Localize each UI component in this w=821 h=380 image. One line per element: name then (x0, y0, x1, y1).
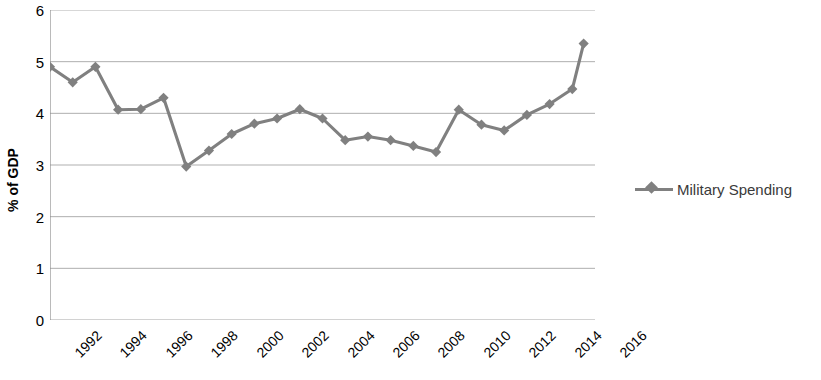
data-point-marker (158, 93, 168, 103)
data-point-marker (295, 104, 305, 114)
military-spending-line-chart: % of GDP 0123456 19921994199619982000200… (0, 0, 821, 380)
data-point-marker (579, 38, 589, 48)
x-tick-label: 2016 (617, 328, 649, 360)
plot-svg (50, 10, 595, 320)
x-tick-label: 1996 (163, 328, 195, 360)
y-tick-label: 2 (22, 209, 44, 224)
y-tick-label: 0 (22, 313, 44, 328)
data-point-marker (363, 131, 373, 141)
y-tick-label: 6 (22, 3, 44, 18)
x-tick-label: 2012 (526, 328, 558, 360)
y-axis-tick-labels: 0123456 (22, 0, 44, 330)
y-tick-label: 4 (22, 106, 44, 121)
x-axis-tick-labels: 1992199419961998200020022004200620082010… (50, 322, 595, 380)
data-point-marker (136, 104, 146, 114)
y-tick-label: 3 (22, 158, 44, 173)
x-tick-label: 2002 (299, 328, 331, 360)
legend-line-diamond-icon (634, 180, 674, 198)
data-point-marker (408, 141, 418, 151)
x-tick-label: 1994 (118, 328, 150, 360)
x-tick-label: 2004 (345, 328, 377, 360)
x-tick-label: 2010 (481, 328, 513, 360)
legend-entry-label: Military Spending (674, 181, 792, 198)
x-tick-label: 1992 (72, 328, 104, 360)
plot-area (50, 10, 595, 320)
x-tick-label: 2000 (254, 328, 286, 360)
chart-legend: Military Spending (634, 180, 792, 198)
data-point-marker (249, 119, 259, 129)
y-tick-label: 1 (22, 261, 44, 276)
x-tick-label: 2014 (572, 328, 604, 360)
x-tick-label: 2008 (435, 328, 467, 360)
y-axis-title-text: % of GDP (5, 148, 21, 212)
x-tick-label: 2006 (390, 328, 422, 360)
x-tick-label: 1998 (208, 328, 240, 360)
data-point-marker (386, 135, 396, 145)
data-point-marker (272, 113, 282, 123)
y-tick-label: 5 (22, 54, 44, 69)
